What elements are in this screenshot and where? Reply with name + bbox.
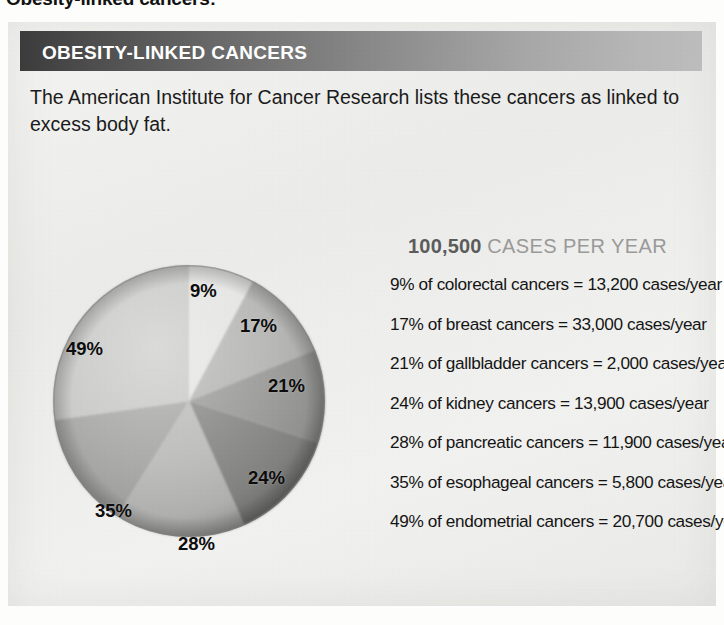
cases-total-value: 100,500 (408, 235, 482, 257)
list-item: 21% of gallbladder cancers = 2,000 cases… (390, 353, 710, 374)
pie-label-colorectal: 9% (190, 280, 217, 302)
list-item: 24% of kidney cancers = 13,900 cases/yea… (390, 393, 710, 414)
pie-label-esophageal: 35% (95, 500, 132, 522)
pie-chart: 9% 17% 21% 24% 28% 35% 49% (50, 235, 328, 575)
infographic-card: OBESITY-LINKED CANCERS The American Inst… (8, 22, 716, 606)
cases-list: 100,500 CASES PER YEAR 9% of colorectal … (390, 235, 710, 532)
pie-label-pancreatic: 28% (178, 533, 215, 555)
list-item: 49% of endometrial cancers = 20,700 case… (390, 511, 710, 532)
list-item: 17% of breast cancers = 33,000 cases/yea… (390, 314, 710, 335)
pie-label-kidney: 24% (248, 467, 285, 489)
chart-area: 9% 17% 21% 24% 28% 35% 49% 100,500 CASES… (8, 157, 716, 606)
list-item: 35% of esophageal cancers = 5,800 cases/… (390, 472, 710, 493)
pie-label-endometrial: 49% (66, 338, 103, 360)
intro-paragraph: The American Institute for Cancer Resear… (30, 84, 680, 138)
header-bar: OBESITY-LINKED CANCERS (20, 31, 702, 71)
list-item: 28% of pancreatic cancers = 11,900 cases… (390, 432, 710, 453)
pie-chart-svg (50, 235, 328, 575)
pie-label-breast: 17% (240, 315, 277, 337)
cases-per-year-header: 100,500 CASES PER YEAR (408, 235, 710, 258)
scanned-page: Obesity-linked cancers: OBESITY-LINKED C… (0, 0, 724, 625)
cut-off-headline: Obesity-linked cancers: (6, 0, 216, 10)
pie-label-gallbladder: 21% (268, 375, 305, 397)
cases-total-label: CASES PER YEAR (487, 235, 667, 257)
list-item: 9% of colorectal cancers = 13,200 cases/… (390, 274, 710, 295)
page-title: OBESITY-LINKED CANCERS (42, 42, 307, 64)
